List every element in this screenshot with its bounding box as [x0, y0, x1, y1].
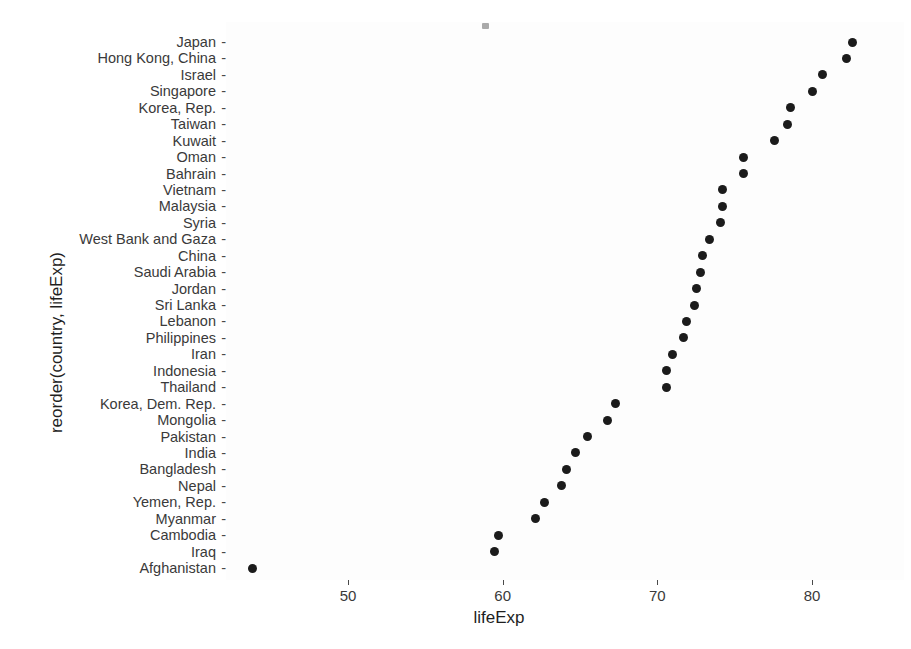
y-axis-tick-label: Indonesia	[153, 363, 216, 379]
data-point	[562, 465, 571, 474]
data-point	[770, 136, 779, 145]
data-point	[682, 317, 691, 326]
y-axis-tick-label: Israel	[181, 67, 216, 83]
data-point	[739, 169, 748, 178]
y-axis-tick-label: Japan	[176, 34, 216, 50]
y-axis-tick-label: Pakistan	[160, 429, 216, 445]
data-point	[808, 87, 817, 96]
data-point	[696, 268, 705, 277]
data-point	[668, 350, 677, 359]
y-axis-tick-label: Afghanistan	[139, 560, 216, 576]
x-axis-tick-label: 80	[804, 587, 821, 604]
data-point	[848, 38, 857, 47]
y-axis-tick-label: Kuwait	[172, 133, 216, 149]
y-axis-tick-label: Mongolia	[157, 412, 216, 428]
y-axis-tick-label: Myanmar	[156, 511, 216, 527]
y-axis-tick-label: Singapore	[150, 83, 216, 99]
y-axis-tick-label: Korea, Dem. Rep.	[100, 396, 216, 412]
plot-panel	[226, 22, 904, 580]
data-point	[718, 185, 727, 194]
data-point	[842, 54, 851, 63]
y-axis-tick-label: Saudi Arabia	[134, 264, 216, 280]
y-axis-tick-label: Oman	[177, 149, 217, 165]
y-axis-tick-label: West Bank and Gaza	[79, 231, 216, 247]
data-point	[718, 202, 727, 211]
x-axis-title: lifeExp	[226, 608, 904, 628]
data-point	[531, 514, 540, 523]
data-point	[692, 284, 701, 293]
data-point	[583, 432, 592, 441]
y-axis-tick-label: Bahrain	[166, 166, 216, 182]
x-axis: 50607080	[226, 580, 904, 610]
x-axis-tick-mark	[503, 580, 504, 585]
x-axis-tick-label: 50	[340, 587, 357, 604]
x-axis-tick-label: 60	[494, 587, 511, 604]
data-point	[716, 218, 725, 227]
data-point	[679, 333, 688, 342]
x-axis-tick-mark	[657, 580, 658, 585]
data-point	[540, 498, 549, 507]
y-axis-tick-label: Lebanon	[160, 313, 216, 329]
y-axis-tick-label: Syria	[183, 215, 216, 231]
x-axis-tick-label: 70	[649, 587, 666, 604]
y-axis-tick-label: Korea, Rep.	[139, 100, 216, 116]
data-point	[603, 416, 612, 425]
data-point	[557, 481, 566, 490]
data-point	[698, 251, 707, 260]
data-point	[783, 120, 792, 129]
data-point	[662, 383, 671, 392]
y-axis-tick-label: Bangladesh	[139, 461, 216, 477]
data-point	[786, 103, 795, 112]
y-axis-tick-label: Cambodia	[150, 527, 216, 543]
data-point	[611, 399, 620, 408]
y-axis-tick-label: Yemen, Rep.	[133, 494, 216, 510]
y-axis-tick-labels: Japan-Hong Kong, China-Israel-Singapore-…	[0, 0, 226, 649]
data-point	[690, 301, 699, 310]
data-point	[494, 531, 503, 540]
y-axis-tick-label: India	[185, 445, 216, 461]
data-point	[705, 235, 714, 244]
y-axis-tick-label: Sri Lanka	[155, 297, 216, 313]
y-axis-tick-label: Iraq	[191, 544, 216, 560]
data-point	[739, 153, 748, 162]
y-axis-tick-label: Iran	[191, 346, 216, 362]
y-axis-tick-label: Thailand	[160, 379, 216, 395]
y-axis-tick-label: Jordan	[172, 281, 216, 297]
y-axis-tick-label: Malaysia	[159, 198, 216, 214]
y-axis-tick-label: Taiwan	[171, 116, 216, 132]
chart-figure: reorder(country, lifeExp) Japan-Hong Kon…	[0, 0, 911, 649]
data-point	[571, 448, 580, 457]
y-axis-tick-label: Philippines	[146, 330, 216, 346]
x-axis-tick-mark	[348, 580, 349, 585]
data-point	[818, 70, 827, 79]
y-axis-tick-label: Nepal	[178, 478, 216, 494]
y-axis-tick-label: Vietnam	[163, 182, 216, 198]
data-point	[662, 366, 671, 375]
data-point	[490, 547, 499, 556]
x-axis-tick-mark	[812, 580, 813, 585]
scan-artifact	[482, 23, 489, 29]
x-axis-title-text: lifeExp	[473, 608, 524, 628]
y-axis-tick-label: China	[178, 248, 216, 264]
data-point	[248, 564, 257, 573]
y-axis-tick-label: Hong Kong, China	[98, 50, 217, 66]
